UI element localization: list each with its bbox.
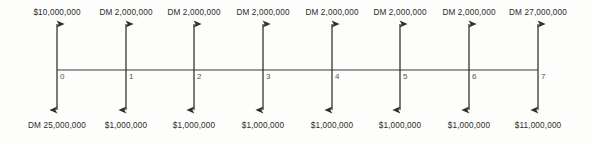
inflow-label-period-7: DM 27,000,000 [509,8,567,18]
period-number-2: 2 [197,72,201,82]
inflow-label-period-0: $10,000,000 [33,8,80,18]
inflow-label-period-3: DM 2,000,000 [236,8,289,18]
timeline-graphics [0,0,591,145]
inflow-label-period-2: DM 2,000,000 [167,8,220,18]
period-number-5: 5 [403,72,407,82]
period-number-6: 6 [472,72,476,82]
period-number-4: 4 [335,72,339,82]
outflow-label-period-5: $1,000,000 [379,121,421,131]
cash-flow-arrows [57,24,538,110]
outflow-label-period-3: $1,000,000 [242,121,284,131]
period-number-0: 0 [60,72,64,82]
inflow-label-period-6: DM 2,000,000 [442,8,495,18]
outflow-label-period-1: $1,000,000 [105,121,147,131]
outflow-label-period-4: $1,000,000 [311,121,353,131]
period-number-1: 1 [129,72,133,82]
outflow-label-period-7: $11,000,000 [515,121,562,131]
inflow-label-period-4: DM 2,000,000 [305,8,358,18]
outflow-label-period-0: DM 25,000,000 [28,121,86,131]
period-number-7: 7 [541,72,545,82]
inflow-label-period-5: DM 2,000,000 [373,8,426,18]
period-number-3: 3 [266,72,270,82]
cash-flow-timeline-diagram: $10,000,000DM 25,000,0000DM 2,000,000$1,… [0,0,591,145]
inflow-label-period-1: DM 2,000,000 [99,8,152,18]
outflow-label-period-2: $1,000,000 [173,121,215,131]
outflow-label-period-6: $1,000,000 [448,121,490,131]
